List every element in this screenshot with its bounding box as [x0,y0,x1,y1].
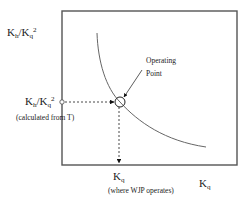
operating-point-label-line1: Operating [146,57,176,65]
x-marker-label-sub: q [121,176,125,184]
y-marker-label-sup: 2 [51,95,55,103]
y-axis-label-sep: /K [19,26,30,38]
x-marker-label-base: K [113,170,121,182]
y-marker-label-sep: /K [37,95,48,107]
x-marker-label: Kq [113,171,125,182]
y-marker-label-base: K [25,95,33,107]
y-axis-label-base: K [7,26,15,38]
y-axis-label: Kh/Kq2 [7,27,37,38]
operating-point-pointer [124,70,142,97]
operating-curve [97,33,206,147]
x-axis-label-base: K [199,177,207,189]
x-marker-note: (where WJP operates) [108,187,174,195]
y-marker-label: Kh/Kq2 [25,96,55,107]
x-axis-label: Kq [199,178,211,189]
x-axis-label-sub: q [207,183,211,191]
y-axis-label-sup: 2 [33,26,37,34]
y-marker-note: (calculated from T) [16,114,74,122]
plot-frame [62,11,237,165]
operating-point-label-line2: Point [146,70,162,78]
y-axis-marker [60,100,64,104]
